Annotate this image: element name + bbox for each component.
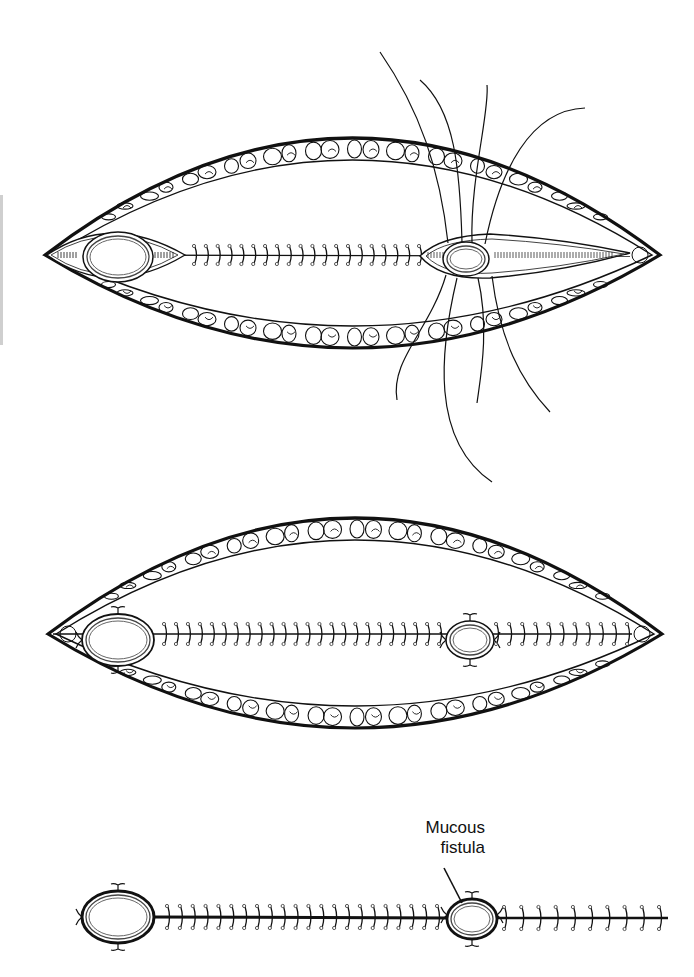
suture-knot bbox=[520, 905, 523, 908]
suture-knot bbox=[268, 926, 271, 929]
suture-knot bbox=[342, 622, 345, 625]
suture-knot bbox=[612, 622, 615, 625]
suture-knot bbox=[294, 622, 297, 625]
retention-suture-thread bbox=[492, 276, 550, 412]
suture-knot bbox=[335, 244, 338, 247]
suture-knot bbox=[204, 244, 207, 247]
suture-knot bbox=[410, 904, 413, 907]
suture-knot bbox=[346, 262, 349, 265]
suture-knot bbox=[358, 904, 361, 907]
label-pointer-line bbox=[444, 868, 462, 903]
suture-knot bbox=[657, 927, 660, 930]
suture-knot bbox=[240, 262, 243, 265]
suture-knot bbox=[345, 926, 348, 929]
suture-knot bbox=[307, 904, 310, 907]
suture-knot bbox=[394, 262, 397, 265]
suture-knot bbox=[204, 904, 207, 907]
surgical-illustration bbox=[0, 0, 694, 977]
suture-knot bbox=[554, 927, 557, 930]
suture-knot bbox=[346, 244, 349, 247]
right-mucous-fistula bbox=[446, 621, 494, 659]
suture-knot bbox=[333, 904, 336, 907]
suture-knot bbox=[191, 904, 194, 907]
suture-knot bbox=[234, 642, 237, 645]
suture-knot bbox=[323, 244, 326, 247]
suture-knot bbox=[521, 622, 524, 625]
suture-knot bbox=[417, 244, 420, 247]
suture-knot bbox=[390, 622, 393, 625]
suture-knot bbox=[307, 926, 310, 929]
suture-knot bbox=[573, 642, 576, 645]
suture-knot bbox=[318, 622, 321, 625]
suture-knot bbox=[423, 904, 426, 907]
suture-knot bbox=[589, 905, 592, 908]
suture-knot bbox=[425, 642, 428, 645]
suture-knot bbox=[358, 262, 361, 265]
suture-knot bbox=[397, 904, 400, 907]
suture-knot bbox=[358, 926, 361, 929]
suture-knot bbox=[402, 622, 405, 625]
tack-suture-icon bbox=[465, 892, 479, 899]
suture-knot bbox=[406, 244, 409, 247]
suture-knot bbox=[258, 642, 261, 645]
suture-knot bbox=[198, 622, 201, 625]
suture-knot bbox=[270, 642, 273, 645]
suture-knot bbox=[494, 642, 497, 645]
tack-suture-icon bbox=[111, 607, 125, 614]
suture-knot bbox=[370, 244, 373, 247]
tack-suture-icon bbox=[76, 909, 82, 925]
label-line-1: Mucous bbox=[385, 818, 485, 838]
suture-knot bbox=[287, 244, 290, 247]
suture-knot bbox=[537, 927, 540, 930]
suture-knot bbox=[330, 642, 333, 645]
suture-knot bbox=[394, 244, 397, 247]
suture-knot bbox=[384, 904, 387, 907]
retention-suture-thread bbox=[444, 278, 492, 482]
suture-knot bbox=[534, 642, 537, 645]
left-end-stoma bbox=[83, 232, 153, 282]
suture-knot bbox=[378, 642, 381, 645]
suture-knot bbox=[230, 926, 233, 929]
fat-lobules bbox=[60, 520, 650, 726]
suture-knot bbox=[222, 642, 225, 645]
suture-knot bbox=[174, 622, 177, 625]
suture-knot bbox=[508, 642, 511, 645]
suture-knot bbox=[573, 622, 576, 625]
suture-knot bbox=[186, 642, 189, 645]
suture-knot bbox=[252, 262, 255, 265]
suture-knot bbox=[258, 622, 261, 625]
suture-knot bbox=[311, 244, 314, 247]
suture-knot bbox=[406, 262, 409, 265]
tack-suture-icon bbox=[463, 659, 477, 666]
suture-knot bbox=[165, 926, 168, 929]
suture-knot bbox=[342, 642, 345, 645]
suture-knot bbox=[287, 262, 290, 265]
suture-knot bbox=[534, 622, 537, 625]
panel-bottom-skin-closure bbox=[76, 868, 668, 950]
skin-closure-line bbox=[152, 917, 447, 918]
suture-knot bbox=[263, 244, 266, 247]
suture-knot bbox=[508, 622, 511, 625]
suture-knot bbox=[228, 244, 231, 247]
suture-knot bbox=[606, 905, 609, 908]
suture-knot bbox=[397, 926, 400, 929]
suture-knot bbox=[370, 262, 373, 265]
suture-knot bbox=[275, 244, 278, 247]
tack-suture-icon bbox=[465, 939, 479, 946]
suture-knot bbox=[390, 642, 393, 645]
suture-knot bbox=[560, 642, 563, 645]
suture-knot bbox=[178, 926, 181, 929]
suture-knot bbox=[252, 244, 255, 247]
suture-knot bbox=[330, 622, 333, 625]
suture-knot bbox=[192, 244, 195, 247]
suture-knot bbox=[217, 904, 220, 907]
suture-knot bbox=[657, 905, 660, 908]
suture-knot bbox=[174, 642, 177, 645]
suture-knot bbox=[345, 904, 348, 907]
suture-knot bbox=[606, 927, 609, 930]
suture-knot bbox=[165, 904, 168, 907]
suture-knot bbox=[246, 642, 249, 645]
suture-knot bbox=[413, 622, 416, 625]
suture-knot bbox=[299, 244, 302, 247]
suture-knot bbox=[192, 262, 195, 265]
